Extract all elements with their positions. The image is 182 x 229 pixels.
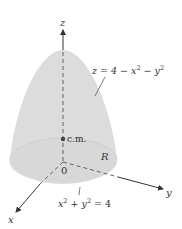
- center-of-mass-dot: [61, 137, 65, 141]
- z-axis-label: z: [59, 17, 66, 28]
- x-axis-label: x: [8, 214, 14, 225]
- surface-equation: z = 4 − x2 − y2: [91, 64, 164, 76]
- y-axis-label: y: [165, 187, 172, 198]
- origin-label: 0: [61, 165, 67, 176]
- region-label: R: [100, 151, 109, 162]
- boundary-equation: x2 + y2 = 4: [58, 197, 111, 209]
- paraboloid-diagram: z y x 0 c.m. R z = 4 − x2 − y2 x2 + y2 =…: [0, 0, 182, 229]
- center-of-mass-label: c.m.: [67, 134, 86, 144]
- boundary-leader-line: [79, 187, 80, 195]
